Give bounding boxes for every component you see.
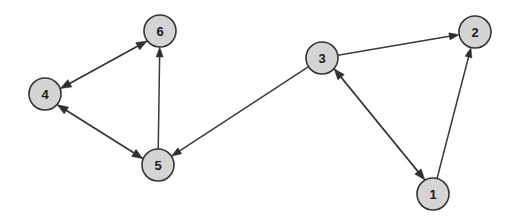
node-label: 5 [154,158,161,173]
edge-3-to-1 [334,69,425,180]
edge-shaft [338,36,451,55]
arrow-head-icon [171,148,181,156]
graph-node-6[interactable]: 6 [144,15,176,47]
edge-shaft [179,67,309,152]
edge-layer [57,33,472,180]
edge-3-to-2 [338,33,459,56]
arrow-head-icon [465,47,472,58]
edge-shaft [437,56,469,179]
edge-6-to-4 [60,41,147,89]
graph-node-3[interactable]: 3 [306,42,338,74]
node-label: 3 [318,51,325,66]
arrow-head-icon [449,33,459,40]
arrow-head-icon [156,47,163,57]
edge-shaft [65,110,143,159]
graph-node-4[interactable]: 4 [29,78,61,110]
edge-shaft [68,41,147,84]
edge-5-to-4 [57,105,143,159]
edge-5-to-6 [156,47,163,149]
graph-node-2[interactable]: 2 [459,16,491,48]
directed-graph-figure: 123456 [0,0,519,221]
arrow-head-icon [415,169,425,180]
node-label: 2 [471,25,478,40]
node-label: 6 [156,24,163,39]
edge-1-to-2 [437,47,472,178]
edge-shaft [334,69,419,173]
node-layer: 123456 [29,15,491,210]
edge-3-to-5 [171,67,308,157]
graph-node-1[interactable]: 1 [417,178,449,210]
edge-shaft [158,55,159,149]
graph-canvas: 123456 [0,0,519,221]
arrow-head-icon [60,80,72,89]
graph-node-5[interactable]: 5 [142,149,174,181]
arrow-head-icon [57,105,69,114]
node-label: 4 [41,87,49,102]
node-label: 1 [429,187,436,202]
